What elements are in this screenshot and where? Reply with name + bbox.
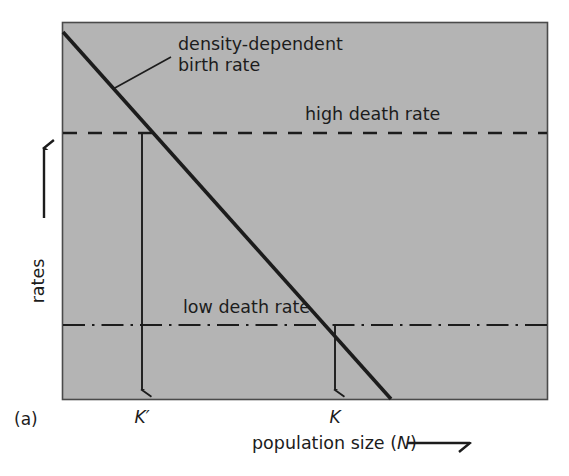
panel-label: (a) — [14, 409, 38, 429]
low-death-rate-annotation: low death rate — [183, 297, 310, 317]
x-tick-label-k-prime: K′ — [134, 407, 149, 427]
x-axis-label: population size (N) — [252, 433, 417, 453]
birth-rate-annotation-line1: density-dependent — [178, 34, 343, 54]
y-axis-label: rates — [28, 259, 48, 304]
figure-panel-a: density-dependent birth rate high death … — [0, 0, 569, 476]
chart-svg: density-dependent birth rate high death … — [0, 0, 569, 476]
x-tick-label-k: K — [329, 407, 342, 427]
plot-area-background — [63, 23, 548, 400]
x-axis-label-text: population size ( — [252, 433, 397, 453]
high-death-rate-annotation: high death rate — [305, 104, 440, 124]
x-axis-label-close: ) — [410, 433, 417, 453]
x-axis-label-symbol: N — [397, 433, 410, 453]
birth-rate-annotation-line2: birth rate — [178, 55, 260, 75]
